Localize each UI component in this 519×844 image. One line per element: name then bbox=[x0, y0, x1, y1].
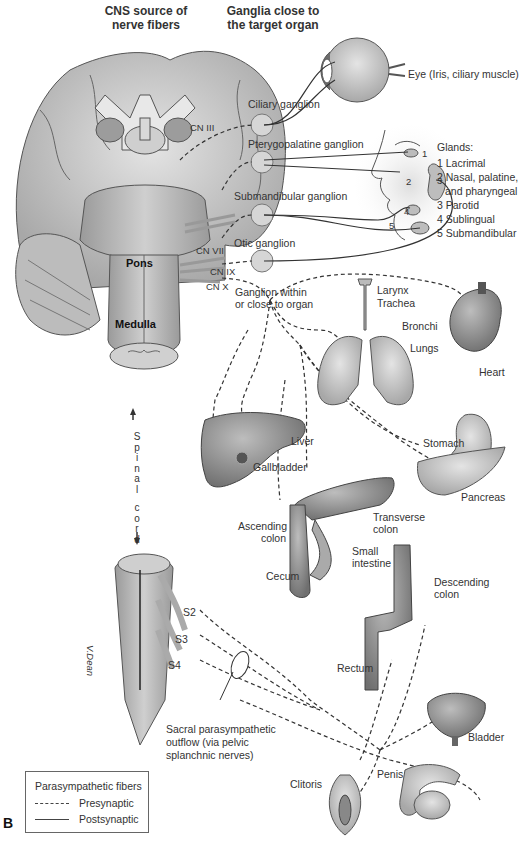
ganglion-within-organ-label: Ganglion within or close to organ bbox=[235, 286, 313, 310]
panel-letter: B bbox=[3, 815, 13, 831]
pterygopalatine-ganglion-label: Pterygopalatine ganglion bbox=[248, 138, 364, 150]
cn7-label: CN VII bbox=[196, 245, 224, 256]
transverse-colon-label: Transverse colon bbox=[373, 511, 425, 535]
pterygopalatine-ganglion-icon bbox=[251, 151, 273, 173]
cn10-label: CN X bbox=[206, 281, 229, 292]
pons-label: Pons bbox=[126, 257, 153, 269]
header-ganglia: Ganglia close to the target organ bbox=[218, 4, 328, 32]
medulla-label: Medulla bbox=[115, 318, 156, 330]
stomach-label: Stomach bbox=[423, 437, 464, 449]
eye-illustration bbox=[321, 38, 405, 102]
trachea-label: Trachea bbox=[377, 297, 415, 309]
legend-presynaptic: Presynaptic bbox=[35, 797, 134, 809]
dashed-line-icon bbox=[35, 803, 69, 804]
gland-number-1: 1 bbox=[422, 148, 427, 159]
gland-number-5: 5 bbox=[389, 220, 394, 231]
gallbladder-label: Gallbladder bbox=[253, 461, 307, 473]
cn9-label: CN IX bbox=[210, 266, 235, 277]
eye-label: Eye (Iris, ciliary muscle) bbox=[408, 68, 519, 80]
clitoris-label: Clitoris bbox=[290, 778, 322, 790]
larynx-label: Larynx bbox=[377, 284, 409, 296]
pancreas-label: Pancreas bbox=[461, 491, 505, 503]
liver-label: Liver bbox=[291, 435, 314, 447]
lungs-label: Lungs bbox=[410, 342, 439, 354]
heart-label: Heart bbox=[479, 366, 505, 378]
rectum-label: Rectum bbox=[337, 662, 373, 674]
s4-label: S4 bbox=[168, 659, 181, 671]
colon-illustration bbox=[290, 478, 412, 690]
illustrator-signature: V.Dean bbox=[85, 645, 96, 676]
s3-label: S3 bbox=[175, 633, 188, 645]
gland-number-2: 2 bbox=[406, 176, 411, 187]
legend-postsynaptic: Postsynaptic bbox=[35, 813, 139, 825]
gland-number-4: 4 bbox=[404, 206, 409, 217]
descending-colon-label: Descending colon bbox=[434, 576, 489, 600]
small-intestine-label: Small intestine bbox=[352, 545, 391, 569]
cecum-label: Cecum bbox=[266, 570, 299, 582]
s2-label: S2 bbox=[183, 606, 196, 618]
heart-illustration bbox=[450, 282, 501, 351]
solid-line-icon bbox=[35, 819, 69, 820]
bronchi-label: Bronchi bbox=[402, 320, 438, 332]
header-cns-source: CNS source of nerve fibers bbox=[96, 4, 196, 32]
stomach-pancreas-illustration bbox=[417, 414, 505, 495]
sacral-outflow-label: Sacral parasympathetic outflow (via pelv… bbox=[166, 723, 276, 762]
spinal-cord-label: S p i n a l c o r d bbox=[132, 432, 142, 545]
ciliary-ganglion-label: Ciliary ganglion bbox=[248, 98, 320, 110]
ascending-colon-label: Ascending colon bbox=[238, 520, 286, 544]
bladder-label: Bladder bbox=[468, 731, 504, 743]
otic-ganglion-label: Otic ganglion bbox=[234, 237, 295, 249]
submandibular-ganglion-label: Submandibular ganglion bbox=[234, 190, 347, 202]
cn3-label: CN III bbox=[190, 122, 214, 133]
gland-number-3: 3 bbox=[437, 175, 442, 186]
legend-title: Parasympathetic fibers bbox=[35, 780, 142, 792]
glands-list: Glands: 1 Lacrimal 2 Nasal, palatine, an… bbox=[437, 140, 518, 240]
liver-illustration bbox=[201, 413, 305, 487]
penis-label: Penis bbox=[377, 768, 403, 780]
legend: Parasympathetic fibers Presynaptic Posts… bbox=[25, 771, 149, 833]
